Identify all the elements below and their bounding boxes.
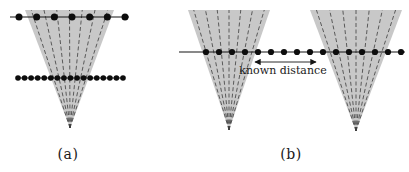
image-point-dot [74,75,80,81]
image-point-dot [268,49,274,55]
image-point-dot [294,49,300,55]
image-point-dot [87,75,93,81]
image-point-dot [359,49,365,55]
image-point-dot [242,49,248,55]
image-point-dot [28,75,34,81]
image-point-dot [16,14,23,21]
image-point-dot [114,75,120,81]
image-point-dot [22,75,28,81]
image-point-dot [203,49,209,55]
image-point-dot [81,75,87,81]
image-point-dot [120,75,126,81]
image-point-dot [333,49,339,55]
image-point-dot [68,75,74,81]
image-point-dot [35,75,41,81]
image-point-dot [122,14,129,21]
image-point-dot [15,75,21,81]
image-point-dot [398,49,404,55]
image-point-dot [307,49,313,55]
image-point-dot [61,75,67,81]
image-point-dot [41,75,47,81]
image-point-dot [94,75,100,81]
image-point-dot [48,75,54,81]
image-point-dot [69,14,76,21]
image-point-dot [86,14,93,21]
known-distance-label: known distance [239,64,326,77]
image-point-dot [51,14,58,21]
panel-label-b: (b) [280,146,301,162]
image-point-dot [55,75,61,81]
image-point-dot [101,75,107,81]
image-point-dot [372,49,378,55]
image-point-dot [346,49,352,55]
image-point-dot [216,49,222,55]
image-point-dot [229,49,235,55]
panel-label-a: (a) [58,146,79,162]
image-point-dot [320,49,326,55]
image-point-dot [385,49,391,55]
image-point-dot [255,49,261,55]
image-point-dot [281,49,287,55]
image-point-dot [107,75,113,81]
figure-canvas: (a) (b) known distance [0,0,409,172]
image-point-dot [104,14,111,21]
image-point-dot [33,14,40,21]
